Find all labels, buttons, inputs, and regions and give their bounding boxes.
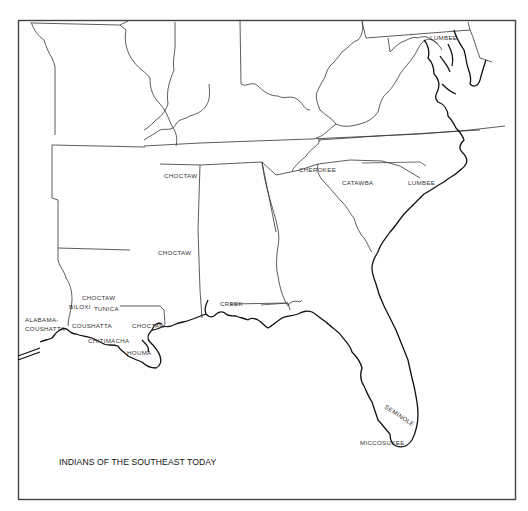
label-houma: HOUMA [127, 349, 152, 356]
label-choctaw-la-north: CHOCTAW [82, 294, 115, 301]
label-lumbee-nc: LUMBEE [408, 179, 435, 186]
label-miccosukee: MICCOSUKEE [360, 439, 405, 446]
label-biloxi: BILOXI [69, 303, 91, 310]
label-lumbee-north: LUMBEE [430, 34, 457, 41]
label-seminole: SEMINOLE [383, 403, 416, 428]
map-frame [19, 21, 516, 500]
map-title: INDIANS OF THE SOUTHEAST TODAY [59, 457, 217, 467]
label-tunica: TUNICA [94, 305, 119, 312]
label-choctaw-tn: CHOCTAW [164, 172, 197, 179]
label-coushatta: COUSHATTA [72, 322, 113, 329]
label-choctaw-la-south: CHOCTAW [132, 322, 165, 329]
label-chitimacha: CHITIMACHA [88, 337, 130, 344]
label-alabama-coushatta-2: COUSHATTA [25, 325, 66, 332]
label-creek: CREEK [220, 300, 243, 307]
southeast-map: LUMBEE CHEROKEE CATAWBA LUMBEE CHOCTAW C… [0, 0, 528, 511]
label-choctaw-ms: CHOCTAW [158, 249, 191, 256]
label-cherokee: CHEROKEE [299, 166, 336, 173]
coastline [18, 30, 486, 447]
state-borders [31, 20, 505, 326]
label-alabama-coushatta-1: ALABAMA- [25, 316, 59, 323]
tribe-labels: LUMBEE CHEROKEE CATAWBA LUMBEE CHOCTAW C… [25, 34, 457, 446]
label-catawba: CATAWBA [342, 179, 374, 186]
